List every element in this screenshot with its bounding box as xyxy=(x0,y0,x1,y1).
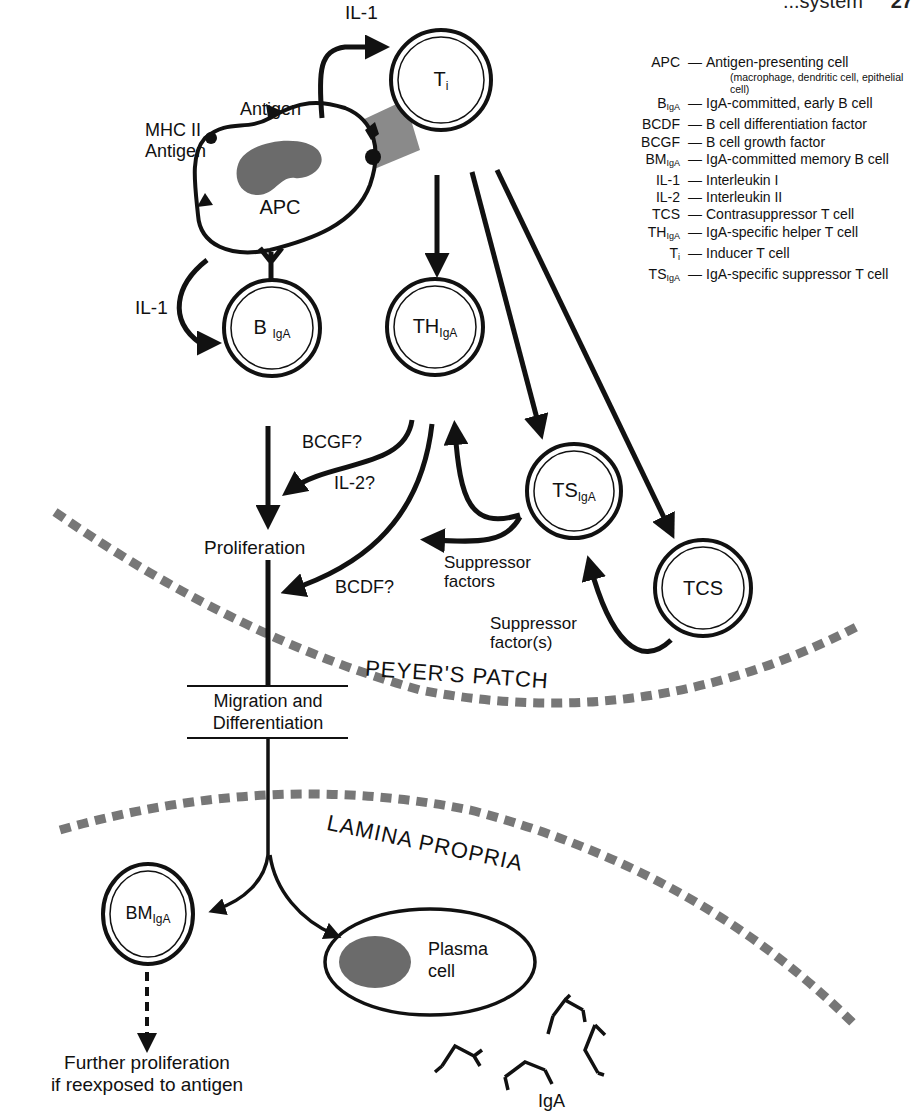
legend-desc: Contrasuppressor T cell xyxy=(706,206,854,223)
legend-dash: — xyxy=(684,134,706,151)
label-mhc-ii-antigen: MHC II Antigen xyxy=(145,120,206,162)
label-suppressor-factors: Suppressor factors xyxy=(444,553,531,591)
legend-desc: IgA-specific suppressor T cell xyxy=(706,266,888,287)
legend-abbr: BCGF xyxy=(600,134,684,151)
mhc-ii-marker xyxy=(205,132,217,144)
legend: APC — Antigen-presenting cell (macrophag… xyxy=(600,54,917,287)
label-suppressor-factor-s-line2: factor(s) xyxy=(490,633,577,652)
ts-iga-label: TSIgA xyxy=(552,479,596,504)
legend-dash: — xyxy=(684,116,706,133)
apc-label: APC xyxy=(259,196,300,219)
plasma-nucleus xyxy=(339,936,411,988)
legend-abbr: Ti xyxy=(600,245,684,266)
legend-dash: — xyxy=(684,151,706,172)
tcs-label: TCS xyxy=(683,577,723,600)
label-suppressor-factors-line2: factors xyxy=(444,572,531,591)
legend-desc: Interleukin II xyxy=(706,189,782,206)
th-iga-label-main: TH xyxy=(413,315,440,337)
label-antigen: Antigen xyxy=(240,100,301,120)
legend-row: IL-1 — Interleukin I xyxy=(600,172,917,189)
arrow-tsIgA-suppressor-factors xyxy=(430,517,520,541)
legend-row: Ti — Inducer T cell xyxy=(600,245,917,266)
legend-row: TSIgA — IgA-specific suppressor T cell xyxy=(600,266,917,287)
legend-row: BMIgA — IgA-committed memory B cell xyxy=(600,151,917,172)
bm-iga-label: BMIgA xyxy=(125,903,170,926)
plasma-label-line2: cell xyxy=(428,960,488,982)
bm-iga-label-sub: IgA xyxy=(152,912,170,926)
legend-desc: IgA-committed memory B cell xyxy=(706,151,889,172)
legend-dash: — xyxy=(684,266,706,287)
label-proliferation: Proliferation xyxy=(204,538,305,559)
ts-iga-label-main: TS xyxy=(552,479,578,501)
legend-note: (macrophage, dendritic cell, epithelial … xyxy=(600,71,917,95)
label-il1-left: IL-1 xyxy=(135,298,168,319)
label-il2: IL-2? xyxy=(334,474,375,494)
arrow-tsIgA-to-thIgA xyxy=(455,430,520,519)
legend-row: TCS — Contrasuppressor T cell xyxy=(600,206,917,223)
legend-abbr: THIgA xyxy=(600,224,684,245)
legend-abbr: APC xyxy=(600,54,684,71)
legend-abbr: IL-2 xyxy=(600,189,684,206)
arrow-il1-apc-to-bIgA xyxy=(179,260,212,343)
label-suppressor-factor-s: Suppressor factor(s) xyxy=(490,614,577,652)
label-suppressor-factors-line1: Suppressor xyxy=(444,553,531,572)
legend-dash: — xyxy=(684,172,706,189)
label-migration-line1: Migration and xyxy=(213,690,324,712)
legend-abbr: BMIgA xyxy=(600,151,684,172)
arrow-to-bmIgA xyxy=(215,855,268,910)
legend-desc: B cell differentiation factor xyxy=(706,116,867,133)
label-migration-line2: Differentiation xyxy=(213,712,324,734)
legend-dash: — xyxy=(684,224,706,245)
label-mhc-line2: Antigen xyxy=(145,141,206,162)
receptor-knob xyxy=(365,149,381,165)
legend-dash: — xyxy=(684,189,706,206)
label-il1-top: IL-1 xyxy=(345,3,378,24)
legend-row: BCDF — B cell differentiation factor xyxy=(600,116,917,133)
label-further-line1: Further proliferation xyxy=(51,1052,243,1074)
th-iga-label: THIgA xyxy=(413,315,458,340)
legend-desc: B cell growth factor xyxy=(706,134,825,151)
label-further-line2: if reexposed to antigen xyxy=(51,1074,243,1096)
legend-row: BIgA — IgA-committed, early B cell xyxy=(600,95,917,116)
legend-dash: — xyxy=(684,54,706,71)
legend-dash: — xyxy=(684,245,706,266)
label-migration-differentiation: Migration and Differentiation xyxy=(213,690,324,734)
legend-abbr: BCDF xyxy=(600,116,684,133)
label-suppressor-factor-s-line1: Suppressor xyxy=(490,614,577,633)
arrow-ti-to-tsIgA xyxy=(472,172,540,430)
legend-abbr: TSIgA xyxy=(600,266,684,287)
bm-iga-label-main: BM xyxy=(125,903,152,923)
th-iga-label-sub: IgA xyxy=(439,326,457,340)
b-iga-label-main: B xyxy=(254,316,267,338)
label-further-proliferation: Further proliferation if reexposed to an… xyxy=(51,1052,243,1096)
legend-abbr: IL-1 xyxy=(600,172,684,189)
tcs-label-main: TCS xyxy=(683,577,723,599)
legend-abbr: TCS xyxy=(600,206,684,223)
ti-label-main: T xyxy=(434,68,446,90)
legend-desc: Inducer T cell xyxy=(706,245,790,266)
legend-dash: — xyxy=(684,206,706,223)
legend-desc: IgA-committed, early B cell xyxy=(706,95,873,116)
b-iga-label: B IgA xyxy=(254,316,291,341)
ti-label-sub: i xyxy=(446,79,449,93)
ti-label: Ti xyxy=(434,68,449,93)
ts-iga-label-sub: IgA xyxy=(578,490,596,504)
b-iga-label-sub: IgA xyxy=(272,327,290,341)
label-bcgf: BCGF? xyxy=(302,433,362,453)
legend-dash: — xyxy=(684,95,706,116)
legend-row: BCGF — B cell growth factor xyxy=(600,134,917,151)
label-bcdf: BCDF? xyxy=(335,578,394,598)
arrow-to-plasma xyxy=(270,855,335,935)
legend-desc: IgA-specific helper T cell xyxy=(706,224,858,245)
legend-row: IL-2 — Interleukin II xyxy=(600,189,917,206)
legend-desc: Antigen-presenting cell xyxy=(706,54,848,71)
label-mhc-line1: MHC II xyxy=(145,120,206,141)
plasma-cell-label: Plasma cell xyxy=(428,938,488,982)
b-cell-receptor xyxy=(260,248,282,280)
label-iga: IgA xyxy=(538,1092,565,1112)
legend-desc: Interleukin I xyxy=(706,172,778,189)
legend-row: APC — Antigen-presenting cell xyxy=(600,54,917,71)
apc-label-text: APC xyxy=(259,196,300,218)
legend-abbr: BIgA xyxy=(600,95,684,116)
legend-row: THIgA — IgA-specific helper T cell xyxy=(600,224,917,245)
